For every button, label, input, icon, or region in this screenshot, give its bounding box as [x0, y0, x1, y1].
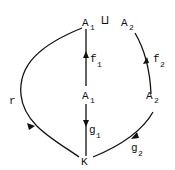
node-a2-mid: A 2	[146, 90, 159, 105]
label-r: r	[9, 95, 16, 107]
arrow-f2	[135, 33, 151, 94]
arrow-r-head	[27, 123, 35, 130]
svg-text:2: 2	[154, 96, 159, 105]
commutative-diagram: A 1 ⨿ A 2 A 1 A 2 K f 1 f 2 g 1 g 2 r	[0, 0, 175, 170]
svg-text:2: 2	[129, 23, 134, 32]
arrow-g2	[93, 112, 153, 157]
node-a1-mid: A 1	[82, 90, 95, 105]
svg-text:A: A	[146, 90, 153, 102]
label-g2: g 2	[131, 142, 143, 158]
arrow-r	[21, 28, 82, 157]
svg-text:1: 1	[97, 60, 102, 69]
label-f1: f 1	[90, 53, 102, 69]
node-a1-top: A 1	[82, 17, 95, 32]
svg-text:1: 1	[90, 96, 95, 105]
label-f2: f 2	[153, 53, 165, 69]
svg-text:1: 1	[96, 131, 101, 140]
svg-text:f: f	[90, 53, 97, 65]
svg-text:A: A	[121, 17, 128, 29]
coproduct-symbol: ⨿	[101, 15, 109, 27]
svg-text:g: g	[131, 142, 138, 154]
svg-text:A: A	[82, 90, 89, 102]
label-g1: g 1	[89, 124, 101, 140]
svg-text:2: 2	[160, 60, 165, 69]
node-k: K	[81, 156, 88, 168]
svg-text:2: 2	[138, 149, 143, 158]
svg-text:g: g	[89, 124, 96, 136]
node-a2-top: A 2	[121, 17, 134, 32]
svg-text:1: 1	[90, 23, 95, 32]
arrow-f1-head	[83, 51, 89, 58]
svg-text:f: f	[153, 53, 160, 65]
svg-text:A: A	[82, 17, 89, 29]
